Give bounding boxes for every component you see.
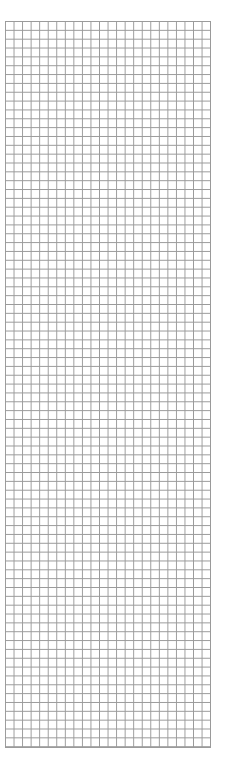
punch-card-chart [0, 0, 228, 774]
stitch-grid [5, 21, 211, 748]
